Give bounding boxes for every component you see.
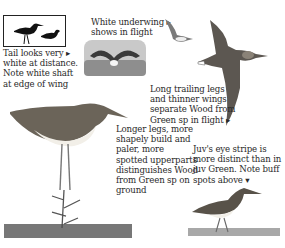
- figure-juvenile-walking: [184, 182, 284, 242]
- caption-tail: Tail looks very ▸ white at distance. Not…: [3, 48, 78, 89]
- silhouette-box: [3, 15, 66, 47]
- caption-flight: Long trailing legs and thinner wings sep…: [150, 84, 235, 125]
- figure-wading-bird: [82, 38, 148, 82]
- bird-silhouettes-icon: [4, 16, 65, 46]
- figure-flying-small: [163, 17, 195, 51]
- caption-underwing: White underwing ▸ shows in flight: [91, 17, 171, 37]
- figure-standing-adult: [4, 100, 132, 248]
- caption-juvenile: Juv's eye stripe is more distinct than i…: [193, 144, 281, 185]
